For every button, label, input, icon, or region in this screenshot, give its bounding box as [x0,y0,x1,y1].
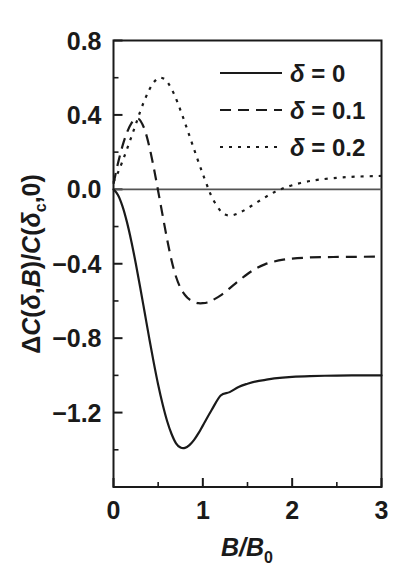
y-title-comma1: , [17,287,45,294]
x-title-sub-0: 0 [264,549,273,566]
y-title-close1: )/ [17,254,45,269]
legend-label-1: δ = 0.1 [290,97,365,124]
x-title-b1: B [221,533,239,561]
y-title-delta: Δ [17,336,45,354]
y-title-delta2: δ [17,212,45,228]
y-tick-label: −1.2 [52,399,101,427]
y-title-delta1: δ [17,293,45,309]
y-tick-label: 0.0 [67,175,102,203]
y-title-comma2: ,0 [17,182,45,203]
y-axis-title: ΔC(δ,B)/C(δc,0) [17,174,49,354]
chart-canvas: −1.2−0.8−0.40.00.40.8 0123 ΔC(δ,B)/C(δc,… [0,0,411,588]
y-title-close2: ) [17,174,45,182]
x-tick-label: 3 [375,496,389,524]
y-tick-label: 0.4 [67,101,102,129]
legend-label-2: δ = 0.2 [290,134,365,161]
y-title-sub-c: c [32,203,49,212]
y-title-c1: C [17,317,45,336]
svg-text:ΔC(δ,B)/C(δc,0): ΔC(δ,B)/C(δc,0) [17,174,49,354]
y-title-b: B [17,269,45,287]
x-tick-label: 2 [285,496,299,524]
x-tick-label: 1 [196,496,210,524]
y-tick-label: 0.8 [67,27,102,55]
legend-label-0: δ = 0 [290,60,345,87]
y-title-c2: C [17,235,45,254]
y-tick-label: −0.8 [52,324,101,352]
x-title-b2: B [246,533,264,561]
x-tick-label: 0 [107,496,121,524]
y-tick-label: −0.4 [52,250,101,278]
chart-figure: −1.2−0.8−0.40.00.40.8 0123 ΔC(δ,B)/C(δc,… [0,0,411,588]
